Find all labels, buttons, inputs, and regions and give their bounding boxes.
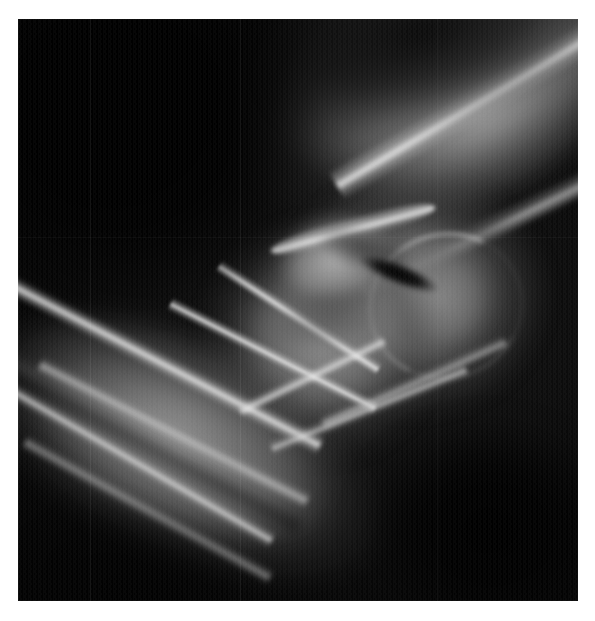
scan-line-artifact-horizontal: [18, 237, 578, 238]
film-grain-overlay-2: [18, 19, 578, 601]
page: [0, 0, 595, 621]
scan-line-artifact-1: [90, 19, 91, 601]
scan-line-artifact-3: [437, 19, 438, 601]
scan-line-artifact-2: [240, 19, 241, 601]
radiograph-image: [18, 19, 578, 601]
